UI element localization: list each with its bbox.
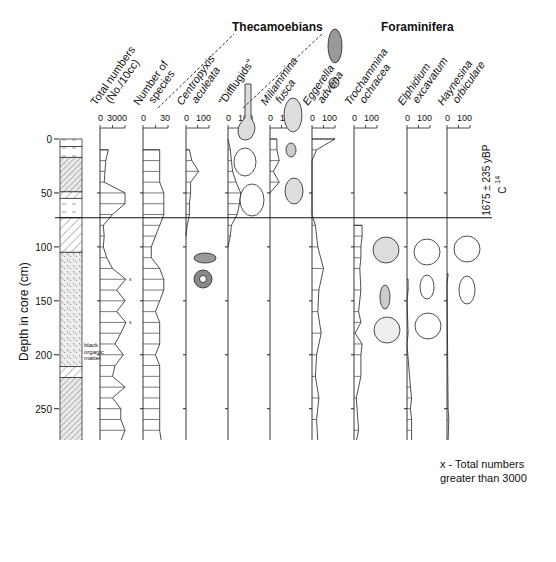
scale-min-label: 0: [226, 113, 231, 123]
miliammina-small: [286, 143, 296, 157]
elphidium-side-view: [414, 239, 440, 265]
series-curve: [407, 279, 413, 440]
total-numbers-note: x - Total numbers greater than 3000: [440, 457, 556, 485]
difflugid-oval: [234, 148, 256, 176]
lithology-unit: [60, 252, 82, 366]
difflugid-flask: [238, 84, 255, 140]
lithology-unit: [60, 157, 82, 192]
haynesina-side-view: [454, 236, 480, 262]
lithology-unit: [60, 377, 82, 440]
series-curve: [312, 139, 335, 440]
elphidium-alt-view: [415, 313, 441, 339]
scale-min-label: 0: [445, 113, 450, 123]
lithology-unit: [60, 198, 82, 217]
organic-matter-note-3: matter: [84, 355, 101, 361]
column-headers: Total numbers(No./10cc)Number ofspeciesC…: [88, 20, 487, 113]
haynesina-edge-view: [459, 276, 475, 304]
series-0: 03000xxx: [97, 113, 134, 440]
series-curve: [143, 150, 164, 440]
over-3000-mark: x: [129, 276, 132, 282]
column-header-4: Miliamminafusca: [258, 55, 309, 114]
date-label: 1675 ± 235 yBP: [481, 144, 492, 215]
column-header-5: Eggerellaadvena: [300, 62, 346, 113]
series-5: 0100: [309, 113, 337, 440]
lithology-unit: [60, 139, 82, 147]
column-header-6: Trochamminaochracea: [342, 46, 399, 114]
radiocarbon-date-line: 1675 ± 235 yBPC14: [55, 144, 508, 217]
y-tick-label: 250: [35, 404, 52, 415]
centropyxis-side-view: [194, 253, 216, 263]
centropyxis-aperture: [200, 276, 207, 283]
trochammina-spiral: [373, 237, 399, 263]
taxa-curves: 03000xxx0300100010001000100010001000100: [97, 113, 472, 440]
organic-matter-note-1: black: [84, 342, 99, 348]
series-curve: [270, 139, 279, 193]
miliammina-large: [284, 98, 302, 132]
scale-min-label: 0: [141, 113, 146, 123]
series-1: 030: [140, 113, 170, 440]
scale-min-label: 0: [98, 113, 103, 123]
lithology-unit: [60, 192, 82, 198]
scale-max-label: 100: [457, 113, 472, 123]
note-line-2: greater than 3000: [440, 471, 556, 485]
elphidium-edge-view: [420, 275, 434, 299]
y-tick-label: 150: [35, 296, 52, 307]
scale-max-label: 100: [196, 113, 211, 123]
scale-max-label: 100: [322, 113, 337, 123]
stratigraphic-figure: blackorganicmatter 050100150200250300317…: [0, 0, 556, 562]
y-tick-label: 50: [41, 188, 53, 199]
miliammina-medium: [285, 178, 303, 204]
isotope-mass: 14: [494, 176, 501, 184]
scale-max-label: 3000: [107, 113, 127, 123]
depth-axis: 050100150200250300317Depth in core (cm): [17, 134, 59, 440]
column-header-2: Centropyxisaculeata: [174, 52, 226, 113]
lithology-unit: [60, 147, 82, 158]
scale-max-label: 30: [160, 113, 170, 123]
eggerella-elongate: [328, 29, 342, 63]
scale-max-label: 100: [364, 113, 379, 123]
trochammina-umbilical: [374, 317, 400, 343]
organic-matter-note-2: organic: [84, 349, 104, 355]
series-curve: [447, 274, 452, 440]
scale-min-label: 0: [405, 113, 410, 123]
difflugid-round: [240, 184, 264, 216]
over-3000-mark: x: [129, 319, 132, 325]
scale-min-label: 0: [310, 113, 315, 123]
series-6: 0100: [351, 113, 379, 440]
y-tick-label: 100: [35, 242, 52, 253]
trochammina-edge: [380, 285, 390, 309]
scale-min-label: 0: [268, 113, 273, 123]
isotope-label: C: [497, 187, 508, 194]
scale-min-label: 0: [352, 113, 357, 123]
lithology-unit: [60, 367, 82, 378]
y-tick-label: 0: [46, 134, 52, 145]
note-line-1: x - Total numbers: [440, 457, 556, 471]
group-label-thecamoebians: Thecamoebians: [232, 20, 323, 34]
series-curve: [100, 150, 126, 440]
lithology-column: blackorganicmatter: [60, 139, 104, 440]
y-axis-label: Depth in core (cm): [17, 262, 31, 361]
scale-max-label: 100: [417, 113, 432, 123]
y-tick-label: 200: [35, 350, 52, 361]
series-4: 0100: [267, 113, 295, 440]
chart-svg: blackorganicmatter 050100150200250300317…: [0, 0, 556, 440]
group-label-foraminifera: Foraminifera: [381, 20, 454, 34]
lithology-unit: [60, 218, 82, 253]
scale-min-label: 0: [184, 113, 189, 123]
